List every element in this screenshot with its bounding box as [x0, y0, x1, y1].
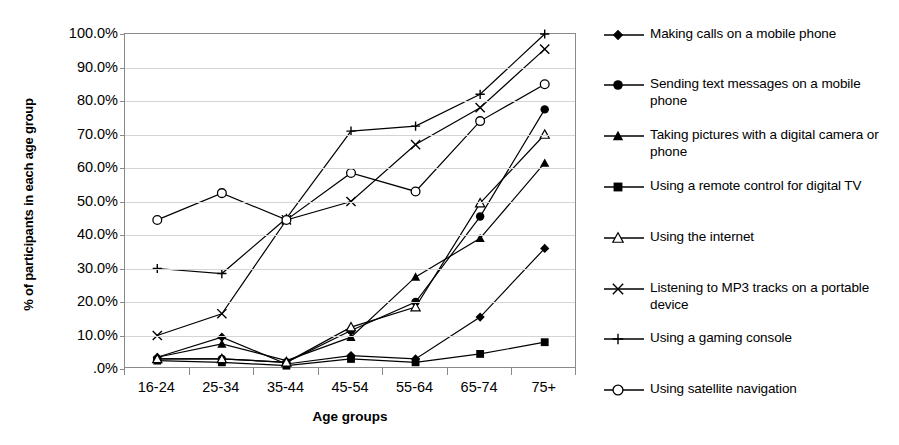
y-axis-tick-label: 10.0% [26, 327, 118, 343]
data-point-cross-x [217, 309, 226, 318]
x-axis-tick-mark [382, 368, 383, 375]
x-axis-tick-mark [318, 368, 319, 375]
y-axis-tick-mark [120, 34, 125, 35]
series-line [157, 49, 544, 335]
data-point-cross-x [476, 103, 485, 112]
y-axis-tick-label: 60.0% [26, 159, 118, 175]
y-axis-tick-mark [120, 235, 125, 236]
gridline [125, 302, 575, 303]
y-axis-tick-label: 100.0% [26, 25, 118, 41]
legend-item[interactable]: Sending text messages on a mobile phone [604, 76, 899, 109]
x-axis-tick-mark [253, 368, 254, 375]
y-axis-tick-label: 80.0% [26, 92, 118, 108]
legend-item[interactable]: Using a gaming console [604, 330, 899, 347]
data-point-open-circle [613, 385, 623, 395]
legend-label: Taking pictures with a digital camera or… [650, 127, 899, 160]
data-point-cross-x [540, 44, 549, 53]
y-axis-tick-mark [120, 302, 125, 303]
gridline [125, 101, 575, 102]
legend-label: Using a remote control for digital TV [650, 178, 861, 195]
y-axis-tick-labels: 100.0%90.0%80.0%70.0%60.0%50.0%40.0%30.0… [26, 0, 118, 445]
legend-item[interactable]: Using satellite navigation [604, 381, 899, 398]
legend-marker-filled-diamond-icon [604, 27, 650, 43]
gridline [125, 68, 575, 69]
y-axis-tick-label: 90.0% [26, 59, 118, 75]
y-axis-tick-label: 50.0% [26, 193, 118, 209]
data-point-filled-square [614, 183, 623, 192]
y-axis-tick-label: 30.0% [26, 260, 118, 276]
data-point-cross-x [411, 140, 420, 149]
gridline [125, 269, 575, 270]
data-point-filled-square [412, 358, 420, 366]
gridline [125, 235, 575, 236]
legend-item[interactable]: Making calls on a mobile phone [604, 26, 899, 43]
x-axis-tick-mark [511, 368, 512, 375]
data-point-open-circle [540, 80, 549, 89]
legend-marker-filled-square-icon [604, 179, 650, 195]
data-point-filled-circle [613, 80, 623, 90]
legend-label: Using a gaming console [650, 330, 792, 347]
x-axis-tick-label: 75+ [504, 379, 584, 395]
data-point-open-circle [476, 117, 485, 126]
series-line [157, 248, 544, 364]
x-axis-tick-mark [124, 368, 125, 375]
legend-label: Using the internet [650, 229, 754, 246]
y-axis-tick-mark [120, 202, 125, 203]
data-point-filled-triangle [411, 272, 420, 280]
legend-label: Making calls on a mobile phone [650, 26, 836, 43]
y-axis-tick-label: .0% [26, 360, 118, 376]
legend-label: Sending text messages on a mobile phone [650, 76, 899, 109]
y-axis-tick-mark [120, 168, 125, 169]
gridline [125, 168, 575, 169]
data-point-open-circle [153, 216, 162, 225]
x-axis-tick-marks [124, 368, 576, 375]
legend-marker-open-triangle-icon [604, 230, 650, 246]
legend-marker-filled-circle-icon [604, 77, 650, 93]
legend-marker-open-circle-icon [604, 382, 650, 398]
data-point-filled-triangle [217, 339, 226, 347]
legend-item[interactable]: Listening to MP3 tracks on a portable de… [604, 280, 899, 313]
legend-marker-plus-icon [604, 331, 650, 347]
plot-area [124, 33, 576, 368]
y-axis-tick-mark [120, 135, 125, 136]
data-point-filled-square [541, 338, 549, 346]
data-point-filled-square [347, 355, 355, 363]
gridline [125, 135, 575, 136]
data-point-open-circle [411, 187, 420, 196]
data-point-filled-circle [476, 212, 484, 220]
series-line [157, 84, 544, 220]
y-axis-tick-mark [120, 101, 125, 102]
x-axis-title: Age groups [124, 409, 576, 424]
x-axis-tick-labels: 16-2425-3435-4445-5455-6465-7475+ [124, 379, 576, 401]
gridline [125, 202, 575, 203]
y-axis-tick-mark [120, 336, 125, 337]
data-point-filled-circle [540, 105, 548, 113]
x-axis-tick-mark [575, 368, 576, 375]
legend-item[interactable]: Using the internet [604, 229, 899, 246]
data-point-open-circle [282, 216, 291, 225]
legend-marker-cross-x-icon [604, 281, 650, 297]
y-axis-tick-mark [120, 269, 125, 270]
legend-label: Using satellite navigation [650, 381, 797, 398]
legend-label: Listening to MP3 tracks on a portable de… [650, 280, 899, 313]
gridline [125, 336, 575, 337]
legend-marker-filled-triangle-icon [604, 128, 650, 144]
y-axis-tick-label: 20.0% [26, 293, 118, 309]
x-axis-tick-mark [189, 368, 190, 375]
data-point-filled-diamond [613, 30, 623, 40]
data-point-plus [613, 334, 623, 344]
data-point-open-circle [217, 189, 226, 198]
x-axis-tick-mark [447, 368, 448, 375]
legend-item[interactable]: Taking pictures with a digital camera or… [604, 127, 899, 160]
legend-item[interactable]: Using a remote control for digital TV [604, 178, 899, 195]
chart-container: % of participants in each age group 100.… [0, 0, 899, 445]
data-point-filled-triangle [540, 158, 549, 166]
chart-legend: Making calls on a mobile phoneSending te… [604, 0, 899, 445]
data-point-open-circle [347, 169, 356, 178]
data-point-filled-square [476, 350, 484, 358]
y-axis-tick-label: 40.0% [26, 226, 118, 242]
y-axis-tick-label: 70.0% [26, 126, 118, 142]
y-axis-tick-mark [120, 68, 125, 69]
data-point-plus [411, 122, 420, 131]
series-line [157, 34, 544, 274]
